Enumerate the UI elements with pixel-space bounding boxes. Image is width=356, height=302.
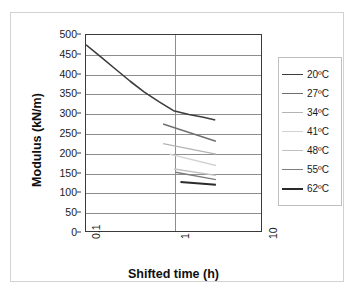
y-axis-tick-labels: 050100150200250300350400450500 [45,34,81,232]
y-tick-label: 350 [59,87,77,99]
y-tick-label: 500 [59,28,77,40]
legend-line-swatch [282,150,303,151]
series-line [180,182,215,185]
x-tick-label: 1 [179,233,191,239]
chart-legend: 20ºC27ºC34ºC41ºC48ºC55ºC62ºC [278,57,342,206]
y-tick-label: 150 [59,167,77,179]
series-line [176,172,216,179]
legend-item[interactable]: 62ºC [282,179,337,198]
y-tick-label: 200 [59,147,77,159]
legend-item-label: 34ºC [307,107,329,118]
series-line [163,124,216,141]
y-tick-label: 100 [59,186,77,198]
legend-item-label: 55ºC [307,164,329,175]
y-tick-label: 400 [59,68,77,80]
legend-line-swatch [282,112,303,113]
x-tick-label: 0.1 [90,224,102,239]
legend-item[interactable]: 41ºC [282,122,337,141]
y-tick-mark [77,152,81,153]
legend-item[interactable]: 55ºC [282,160,337,179]
y-tick-mark [77,53,81,54]
legend-line-swatch [282,131,303,132]
series-line [169,154,215,165]
series-line [163,144,216,155]
y-tick-mark [77,34,81,35]
legend-item[interactable]: 20ºC [282,65,337,84]
x-tick-label: 10 [267,227,279,239]
plot-area [85,34,262,232]
legend-item[interactable]: 27ºC [282,84,337,103]
y-tick-mark [77,73,81,74]
legend-item[interactable]: 34ºC [282,103,337,122]
y-axis-title: Modulus (kN/m) [30,70,44,210]
legend-item-label: 48ºC [307,145,329,156]
y-tick-mark [77,232,81,233]
y-tick-mark [77,93,81,94]
legend-item-label: 27ºC [307,88,329,99]
y-tick-label: 250 [59,127,77,139]
legend-line-swatch [282,93,303,94]
data-series-layer [86,35,261,231]
chart-figure: Modulus (kN/m) 0501001502002503003504004… [10,12,344,282]
y-tick-mark [77,172,81,173]
y-tick-label: 300 [59,107,77,119]
x-axis-title: Shifted time (h) [85,267,262,281]
legend-line-swatch [282,74,303,75]
y-tick-mark [77,133,81,134]
legend-line-swatch [282,169,303,170]
legend-item-label: 62ºC [307,183,329,194]
series-line [86,45,215,120]
y-tick-mark [77,113,81,114]
y-tick-label: 50 [65,206,77,218]
legend-line-swatch [282,188,303,190]
y-tick-mark [77,192,81,193]
y-tick-mark [77,212,81,213]
legend-item-label: 20ºC [307,69,329,80]
legend-item[interactable]: 48ºC [282,141,337,160]
y-tick-label: 450 [59,48,77,60]
series-line [174,169,216,175]
legend-item-label: 41ºC [307,126,329,137]
